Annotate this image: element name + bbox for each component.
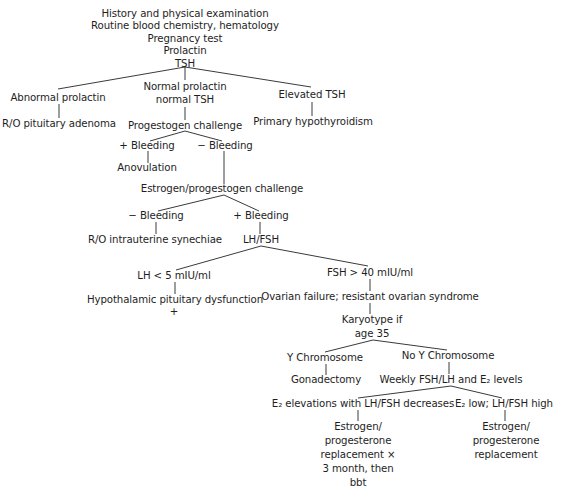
node-replacement-bbt-line5: bbt (321, 476, 396, 490)
node-replacement-bbt-line1: Estrogen/ (321, 420, 396, 434)
edge-estrogen-challenge-plus-bleeding (224, 195, 259, 211)
node-replacement-bbt: Estrogen/ progesterone replacement × 3 m… (321, 420, 396, 490)
node-progestogen-challenge: Progestogen challenge (128, 120, 242, 133)
node-replacement-line3: replacement (473, 448, 540, 462)
connector-lines (0, 0, 561, 490)
node-lh-low: LH < 5 mIU/ml (137, 270, 210, 283)
root-node: History and physical examination Routine… (91, 8, 279, 70)
node-plus-bleeding-2: + Bleeding (233, 210, 288, 223)
root-line-pregnancy-test: Pregnancy test (91, 33, 279, 45)
node-replacement-line2: progesterone (473, 434, 540, 448)
node-replacement-bbt-line4: 3 month, then (321, 462, 396, 476)
node-plus-mark: + (170, 306, 178, 319)
edge-lhfsh-lh-low (176, 246, 261, 270)
edge-karyotype-no-y (373, 340, 447, 350)
node-fsh-high: FSH > 40 mIU/ml (327, 267, 413, 280)
node-replacement-bbt-line3: replacement × (321, 448, 396, 462)
node-hypothalamic-pituitary-dysfunction: Hypothalamic pituitary dysfunction (87, 294, 263, 307)
node-lh-fsh: LH/FSH (243, 234, 279, 247)
node-primary-hypothyroidism: Primary hypothyroidism (253, 116, 373, 129)
node-karyotype: Karyotype if age 35 (342, 313, 402, 341)
node-replacement: Estrogen/ progesterone replacement (473, 420, 540, 462)
root-line-history: History and physical examination (91, 8, 279, 20)
node-ro-pituitary-adenoma: R/O pituitary adenoma (2, 118, 116, 131)
root-line-prolactin: Prolactin (91, 45, 279, 57)
edge-estrogen-challenge-minus-bleeding (158, 195, 224, 211)
edge-karyotype-y (325, 340, 373, 352)
node-ro-intrauterine-synechiae: R/O intrauterine synechiae (88, 234, 222, 247)
node-normal-prolactin: Normal prolactin normal TSH (143, 81, 226, 106)
node-plus-bleeding-1: + Bleeding (119, 140, 174, 153)
node-elevated-tsh: Elevated TSH (279, 89, 346, 102)
node-e2-low: E₂ low; LH/FSH high (455, 398, 553, 411)
node-gonadectomy: Gonadectomy (291, 374, 361, 387)
node-replacement-line1: Estrogen/ (473, 420, 540, 434)
node-minus-bleeding-1: − Bleeding (197, 140, 252, 153)
node-y-chromosome: Y Chromosome (287, 352, 363, 365)
edge-weekly-e2-elevations (358, 386, 451, 398)
flowchart-canvas: History and physical examination Routine… (0, 0, 561, 490)
edge-lhfsh-fsh-high (261, 246, 368, 266)
node-abnormal-prolactin: Abnormal prolactin (10, 92, 105, 105)
node-ovarian-failure: Ovarian failure; resistant ovarian syndr… (261, 291, 479, 304)
node-normal-prolactin-line2: normal TSH (143, 94, 226, 107)
node-normal-prolactin-line1: Normal prolactin (143, 81, 226, 94)
node-e2-elevations: E₂ elevations with LH/FSH decreases (272, 398, 454, 411)
root-line-blood-chemistry: Routine blood chemistry, hematology (91, 20, 279, 32)
node-anovulation: Anovulation (117, 162, 177, 175)
node-no-y-chromosome: No Y Chromosome (402, 350, 495, 363)
node-karyotype-line2: age 35 (342, 327, 402, 341)
node-estrogen-progestogen-challenge: Estrogen/progestogen challenge (141, 183, 303, 196)
node-minus-bleeding-2: − Bleeding (128, 210, 183, 223)
edge-weekly-e2-low (451, 386, 502, 398)
node-karyotype-line1: Karyotype if (342, 313, 402, 327)
node-replacement-bbt-line2: progesterone (321, 434, 396, 448)
node-weekly-levels: Weekly FSH/LH and E₂ levels (380, 374, 523, 387)
root-line-tsh: TSH (91, 58, 279, 70)
